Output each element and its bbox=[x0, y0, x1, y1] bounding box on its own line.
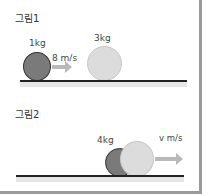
small-ball-mass-label: 1kg bbox=[29, 38, 46, 48]
ground-line bbox=[20, 80, 187, 82]
ground-shade bbox=[20, 82, 187, 87]
frame-right-border bbox=[199, 0, 202, 194]
frame-bottom-border bbox=[0, 191, 202, 194]
large-ball-mass-label: 3kg bbox=[94, 33, 111, 43]
velocity-arrow-icon bbox=[52, 65, 66, 69]
figure2-title: 그림2 bbox=[15, 106, 39, 121]
ground-line bbox=[16, 175, 184, 177]
small-ball-1kg bbox=[23, 52, 51, 81]
combined-mass-label: 4kg bbox=[97, 135, 114, 145]
large-ball-3kg bbox=[87, 46, 122, 81]
velocity-arrow-icon bbox=[155, 157, 177, 161]
large-ball-stuck bbox=[120, 141, 154, 177]
figure1-title: 그림1 bbox=[15, 10, 39, 25]
ground-shade bbox=[16, 177, 184, 182]
combined-velocity-label: v m/s bbox=[159, 133, 182, 143]
